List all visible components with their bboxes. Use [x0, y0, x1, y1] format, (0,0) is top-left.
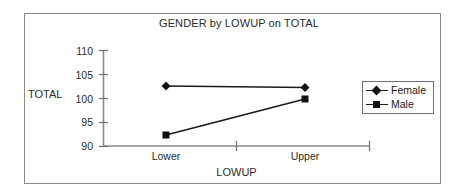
series-male-point-lower — [163, 132, 170, 139]
chart-container: GENDER by LOWUP on TOTAL TOTAL LOWUP 110… — [0, 0, 463, 196]
series-female-point-upper — [300, 83, 309, 92]
series-female-line — [166, 86, 305, 88]
series-female — [161, 81, 309, 92]
series-female-point-lower — [161, 81, 170, 90]
legend-item-male[interactable]: Male — [366, 97, 414, 111]
legend-swatch-male — [366, 98, 388, 110]
series-male-line — [166, 99, 305, 135]
legend-swatch-female — [366, 84, 388, 96]
series-male — [163, 96, 309, 139]
series-male-point-upper — [302, 96, 309, 103]
diamond-marker-icon — [372, 85, 382, 95]
chart-legend: Female Male — [362, 81, 434, 114]
axis-lines — [103, 50, 370, 146]
legend-label-male: Male — [388, 98, 414, 110]
square-marker-icon — [373, 101, 380, 108]
legend-label-female: Female — [388, 84, 426, 96]
legend-item-female[interactable]: Female — [366, 83, 426, 97]
